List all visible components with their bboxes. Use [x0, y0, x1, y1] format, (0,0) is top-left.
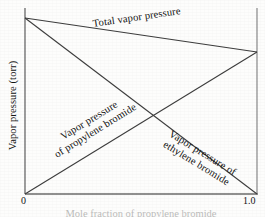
vapor-pressure-chart: Vapor pressure (torr) Mole fraction of p… [0, 0, 265, 217]
y-axis-title: Vapor pressure (torr) [7, 21, 18, 191]
x-tick-label-1: 1.0 [243, 195, 256, 206]
x-axis-title: Mole fraction of propylene bromide [25, 208, 257, 217]
x-tick-label-0: 0 [21, 195, 26, 206]
